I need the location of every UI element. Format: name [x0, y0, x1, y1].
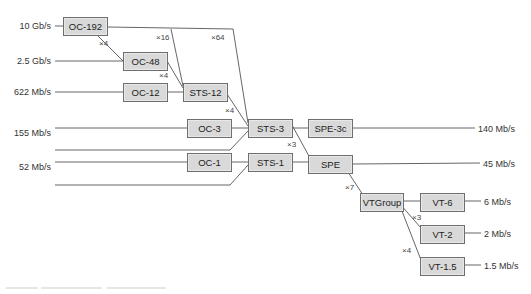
input-rate-label: 10 Gb/s — [0, 21, 51, 32]
multiplier-label: ×4 — [99, 39, 108, 48]
output-rate-label: 2 Mb/s — [484, 229, 511, 240]
cropped-caption — [6, 287, 166, 289]
multiplier-label: ×4 — [402, 246, 411, 255]
multiplier-label: ×4 — [159, 71, 168, 80]
node-sts12: STS-12 — [183, 83, 228, 102]
input-rate-label: 155 Mb/s — [0, 128, 51, 139]
node-sts1: STS-1 — [248, 153, 293, 172]
node-oc3: OC-3 — [187, 119, 232, 138]
node-spe3c: SPE-3c — [308, 119, 353, 138]
input-rate-label: 622 Mb/s — [0, 87, 51, 98]
multiplier-label: ×4 — [225, 106, 234, 115]
sonet-hierarchy-diagram — [0, 0, 531, 294]
output-rate-label: 1.5 Mb/s — [484, 261, 519, 272]
multiplier-label: ×16 — [156, 33, 170, 42]
node-vt6: VT-6 — [420, 193, 465, 212]
multiplier-label: ×7 — [345, 183, 354, 192]
node-vtgroup: VTGroup — [360, 193, 404, 212]
multiplier-label: ×3 — [287, 140, 296, 149]
node-oc1: OC-1 — [187, 153, 232, 172]
node-oc192: OC-192 — [63, 17, 108, 36]
output-rate-label: 6 Mb/s — [484, 197, 511, 208]
node-spe: SPE — [308, 155, 353, 174]
multiplier-label: ×64 — [211, 33, 225, 42]
node-vt15: VT-1.5 — [420, 257, 465, 276]
multiplier-label: ×3 — [412, 213, 421, 222]
output-rate-label: 140 Mb/s — [478, 124, 515, 135]
input-rate-label: 52 Mb/s — [0, 162, 51, 173]
node-oc48: OC-48 — [123, 52, 168, 71]
node-sts3: STS-3 — [248, 119, 293, 138]
node-oc12: OC-12 — [123, 83, 168, 102]
input-rate-label: 2.5 Gb/s — [0, 56, 51, 67]
connector-line — [352, 163, 480, 164]
node-vt2: VT-2 — [420, 225, 465, 244]
output-rate-label: 45 Mb/s — [483, 159, 515, 170]
